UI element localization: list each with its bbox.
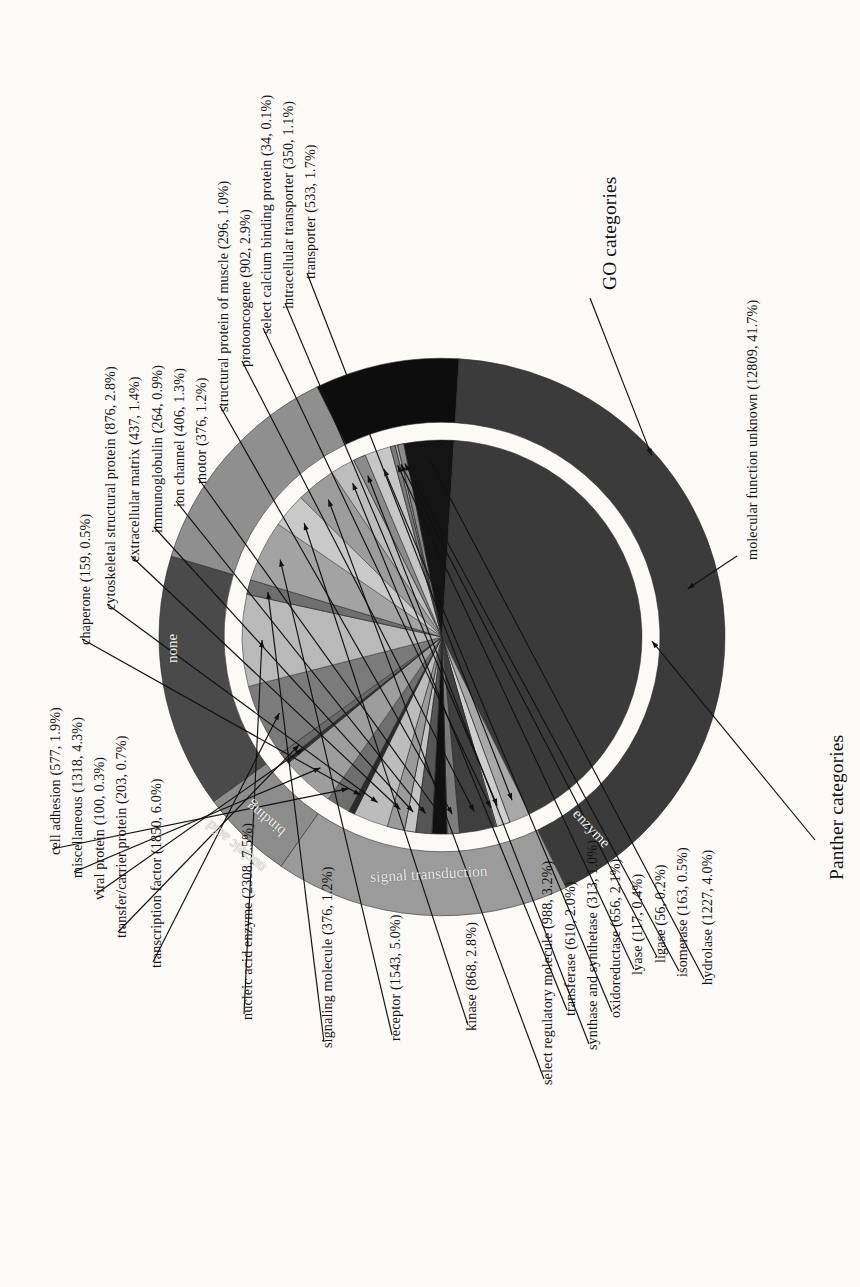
callout-label-synthase: synthase and synthetase (313, 1.0%) (585, 840, 599, 1050)
callout-label-transporter: transporter (533, 1.7%) (303, 144, 317, 279)
callout-label-isomerase: isomerase (163, 0.5%) (675, 847, 689, 977)
callout-label-hydrolase: hydrolase (1227, 4.0%) (700, 850, 714, 985)
callout-label-cytoskeletal: cytoskeletal structural protein (876, 2.… (103, 366, 117, 610)
callout-label-immunoglobulin: immunoglobulin (264, 0.9%) (150, 365, 164, 533)
callout-label-nucleic-acid-enzyme: nucleic acid enzyme (2308, 7.5%) (240, 823, 254, 1020)
callout-label-cell-adhesion: cell adhesion (577, 1.9%) (48, 707, 62, 855)
inner-pie-go (242, 440, 642, 834)
callout-label-kinase: kinase (868, 2.8%) (464, 922, 478, 1031)
callout-label-lyase: lyase (117, 0.4%) (630, 874, 644, 975)
callout-label-go-categories: GO categories (600, 177, 620, 290)
callout-label-chaperone: chaperone (159, 0.5%) (78, 514, 92, 645)
callout-label-miscellaneous: miscellaneous (1318, 4.3%) (70, 717, 84, 878)
callout-label-ligase: ligase (56, 0.2%) (653, 864, 667, 963)
donut-chart: none nucleic acid binding signal transdu… (0, 0, 860, 1287)
callout-label-receptor: receptor (1543, 5.0%) (388, 914, 402, 1041)
callout-label-motor: motor (376, 1.2%) (194, 377, 208, 484)
callout-label-select-regulatory: select regulatory molecule (988, 3.2%) (540, 861, 554, 1085)
donut-chart-svg (0, 0, 860, 1287)
callout-label-signaling-molecule: signaling molecule (376, 1.2%) (320, 867, 334, 1049)
callout-label-oxidoreductase: oxidoreductase (656, 2.1%) (608, 859, 622, 1018)
callout-label-panther-categories: Panther categories (827, 735, 847, 880)
callout-label-transferase: transferase (610, 2.0%) (563, 881, 577, 1016)
figure-page: none nucleic acid binding signal transdu… (0, 0, 860, 1287)
callout-label-protooncogene: protooncogene (902, 2.9%) (238, 209, 252, 367)
callout-label-extracellular-matrix: extracellular matrix (437, 1.4%) (127, 376, 141, 562)
callout-label-structural-muscle: structural protein of muscle (296, 1.0%) (216, 181, 230, 412)
callout-label-mol-func-unknown: molecular function unknown (12809, 41.7%… (745, 300, 759, 560)
callout-label-select-calcium: select calcium binding protein (34, 0.1%… (259, 95, 273, 334)
callout-label-transfer-carrier: transfer/carrier protein (203, 0.7%) (114, 735, 128, 938)
callout-label-transcription-factor: transcription factor (1850, 6.0%) (149, 778, 163, 968)
callout-label-intracellular-trans: intracellular transporter (350, 1.1%) (281, 101, 295, 309)
callout-label-ion-channel: ion channel (406, 1.3%) (172, 368, 186, 507)
callout-label-viral-protein: viral protein (100, 0.3%) (92, 757, 106, 900)
